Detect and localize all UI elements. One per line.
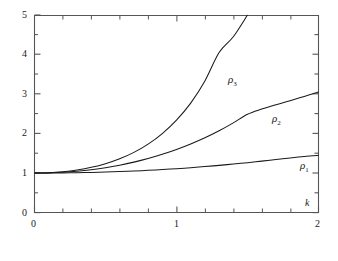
y-tick-label-0: 0 [22, 208, 27, 218]
y-tick-label-2: 2 [22, 128, 27, 138]
y-tick-label-4: 4 [22, 49, 27, 59]
series-label-rho-1: ρ1 [300, 160, 309, 171]
x-tick-label-1: 1 [174, 219, 179, 229]
y-right-ticks [313, 35, 319, 213]
series-label-rho-2: ρ2 [272, 113, 281, 124]
y-tick-label-1: 1 [22, 168, 27, 178]
series-label-rho-3: ρ3 [228, 74, 237, 85]
chart-figure: 5 4 3 2 1 0 0 1 2 k ρ1 ρ2 ρ3 [0, 0, 338, 261]
series-label-rho-1-sub: 1 [305, 166, 309, 174]
curve-rho-2 [35, 92, 319, 173]
x-tick-label-0: 0 [31, 219, 36, 229]
x-tick-label-2: 2 [315, 219, 320, 229]
series-label-rho-2-sub: 2 [277, 119, 281, 127]
x-top-ticks [63, 16, 291, 22]
y-tick-label-5: 5 [22, 10, 27, 20]
chart-plot-area [0, 0, 338, 261]
curve-rho-3 [35, 15, 248, 173]
x-axis-label: k [305, 198, 309, 208]
y-tick-label-3: 3 [22, 89, 27, 99]
series-label-rho-3-sub: 3 [233, 80, 237, 88]
x-major-ticks [35, 207, 319, 213]
data-curves [35, 15, 319, 173]
